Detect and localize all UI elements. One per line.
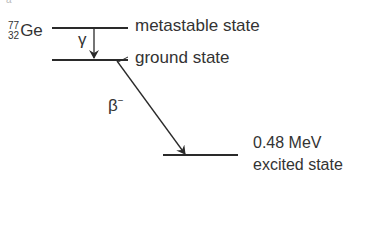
nuclide-scripts: 77 32 — [8, 21, 19, 41]
element-symbol: Ge — [20, 21, 43, 41]
atomic-number: 32 — [8, 30, 19, 41]
beta-label: β− — [108, 95, 124, 116]
excited-state-energy: 0.48 MeV — [253, 134, 321, 152]
panel-label-fragment: a — [6, 0, 12, 5]
beta-symbol: β — [108, 96, 118, 115]
ground-state-label: ground state — [135, 49, 230, 67]
beta-charge: − — [118, 95, 124, 106]
metastable-state-label: metastable state — [135, 17, 260, 35]
beta-arrow — [117, 61, 185, 154]
gamma-label: γ — [78, 30, 87, 50]
gamma-symbol: γ — [78, 30, 87, 49]
excited-state-label: excited state — [253, 156, 343, 174]
nuclide-symbol: 77 32 Ge — [8, 21, 43, 41]
decay-scheme-diagram: a 77 32 Ge γ β− metastable state ground … — [0, 0, 366, 231]
